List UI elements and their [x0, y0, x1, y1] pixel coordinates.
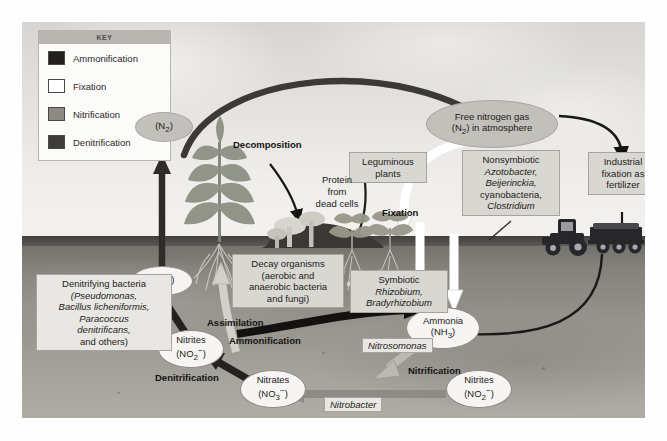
label-nitrobacter: Nitrobacter — [324, 397, 382, 412]
free-nitrogen-line1: Free nitrogen gas — [455, 111, 529, 122]
nitrogen-cycle-figure: KEY Ammonification Fixation Nitrificatio… — [22, 22, 645, 418]
label-fixation: Fixation — [382, 207, 418, 218]
nitrites-left-line2: (NO2−) — [176, 345, 206, 363]
key-label-ammonification: Ammonification — [73, 53, 138, 64]
label-denitrification: Denitrification — [155, 372, 219, 383]
decay-line4: and fungi) — [238, 293, 338, 305]
box-industrial-fixation: Industrial fixation as fertilizer — [588, 152, 645, 195]
leguminous-line1: Leguminous — [355, 156, 421, 168]
key-item-fixation: Fixation — [39, 72, 170, 100]
key-swatch-nitrification — [48, 107, 65, 121]
protein-line3: dead cells — [299, 198, 375, 210]
decay-line3: anaerobic bacteria — [238, 281, 338, 293]
screenshot-canvas: KEY Ammonification Fixation Nitrificatio… — [0, 0, 667, 441]
ammonia-line1: Ammonia — [423, 315, 463, 326]
key-swatch-fixation — [48, 79, 65, 93]
node-free-nitrogen-gas: Free nitrogen gas (N2) in atmosphere — [426, 100, 558, 148]
tractor-icon — [542, 219, 587, 256]
key-swatch-ammonification — [48, 51, 65, 65]
denitrifying-line3: Bacillus licheniformis, — [42, 301, 166, 313]
nitrates-line2: (NO3−) — [258, 385, 288, 403]
decay-line1: Decay organisms — [238, 258, 338, 270]
label-protein-from-dead-cells: Protein from dead cells — [299, 174, 375, 210]
industrial-line3: fertilizer — [594, 179, 645, 191]
nitrites-right-line1: Nitrites — [464, 374, 494, 385]
decay-line2: (aerobic and — [238, 270, 338, 282]
label-decomposition: Decomposition — [233, 139, 302, 150]
label-nitrosomonas: Nitrosomonas — [362, 338, 433, 353]
ammonia-line2: (NH3) — [431, 326, 455, 341]
corn-plant-icon — [184, 116, 255, 242]
key-title: KEY — [39, 31, 170, 44]
node-n2-left: (N2) — [135, 112, 193, 142]
label-nitrification: Nitrification — [408, 365, 461, 376]
key-label-fixation: Fixation — [73, 81, 106, 92]
nitrites-left-line1: Nitrites — [176, 334, 206, 345]
label-ammonification: Ammonification — [229, 335, 301, 346]
denitrifying-line1: Denitrifying bacteria — [42, 278, 166, 290]
nonsymbiotic-line3: Beijerinckia, — [468, 177, 554, 189]
symbiotic-line3: Bradyrhizobium — [356, 297, 442, 309]
free-nitrogen-line2: (N2) in atmosphere — [452, 122, 532, 137]
key-legend: KEY Ammonification Fixation Nitrificatio… — [38, 30, 171, 161]
industrial-line2: fixation as — [594, 168, 645, 180]
box-symbiotic-fixers: Symbiotic Rhizobium, Bradyrhizobium — [350, 270, 448, 313]
denitrifying-line4: Paracoccus — [42, 313, 166, 325]
industrial-line1: Industrial — [594, 156, 645, 168]
symbiotic-line2: Rhizobium, — [356, 286, 442, 298]
nonsymbiotic-line5: Clostridium — [468, 200, 554, 212]
key-label-nitrification: Nitrification — [73, 109, 120, 120]
box-decay-organisms: Decay organisms (aerobic and anaerobic b… — [232, 254, 344, 308]
node-nitrates: Nitrates (NO3−) — [240, 370, 306, 408]
protein-line2: from — [299, 186, 375, 198]
box-nonsymbiotic-fixers: Nonsymbiotic Azotobacter, Beijerinckia, … — [462, 150, 560, 216]
symbiotic-line1: Symbiotic — [356, 274, 442, 286]
trailer-icon — [588, 223, 644, 254]
nonsymbiotic-line2: Azotobacter, — [468, 166, 554, 178]
label-assimilation: Assimilation — [207, 317, 264, 328]
denitrifying-line5: denitrificans, — [42, 324, 166, 336]
denitrifying-line6: and others) — [42, 336, 166, 348]
key-label-denitrification: Denitrification — [73, 137, 131, 148]
nonsymbiotic-line1: Nonsymbiotic — [468, 154, 554, 166]
nitrites-right-line2: (NO2−) — [464, 385, 494, 403]
nonsymbiotic-line4: cyanobacteria, — [468, 189, 554, 201]
key-item-ammonification: Ammonification — [39, 44, 170, 72]
key-swatch-denitrification — [48, 135, 65, 149]
box-denitrifying-bacteria: Denitrifying bacteria (Pseudomonas, Baci… — [36, 274, 172, 351]
denitrifying-line2: (Pseudomonas, — [42, 290, 166, 302]
protein-line1: Protein — [299, 174, 375, 186]
nitrates-line1: Nitrates — [257, 374, 290, 385]
